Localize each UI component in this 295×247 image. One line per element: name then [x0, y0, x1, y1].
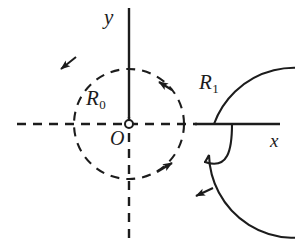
figure-svg	[0, 0, 295, 247]
outer-contour-arrow-lower-right	[196, 188, 213, 196]
outer-radius-label-base: R	[199, 70, 212, 94]
outer-contour-arrow-upper-left	[61, 57, 76, 69]
inner-contour-arrow-upper	[159, 82, 172, 90]
y-axis-label: y	[104, 7, 113, 28]
outer-radius-label: R1	[199, 72, 219, 95]
outer-radius-label-subscript: 1	[212, 81, 219, 96]
inner-radius-label-subscript: 0	[99, 97, 106, 112]
figure-canvas: y x O R0 R1	[0, 0, 295, 247]
inner-radius-label: R0	[86, 88, 106, 111]
x-axis-label: x	[270, 131, 278, 150]
origin-marker-icon	[125, 120, 133, 128]
origin-label: O	[110, 128, 124, 148]
inner-contour-arrow-lower	[157, 163, 172, 172]
inner-radius-label-base: R	[86, 86, 99, 110]
